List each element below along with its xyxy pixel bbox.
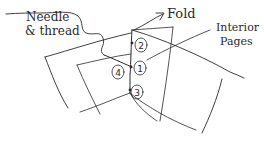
hole-marker-3: 3 <box>131 85 143 99</box>
fold-arrow <box>134 14 163 30</box>
pages-label: Pages <box>220 35 253 48</box>
needle-label: Needle <box>26 10 69 24</box>
stitch-diagram: 2 1 3 4 Needle & thread Fold Interior Pa… <box>0 0 264 141</box>
hole-label-4: 4 <box>115 68 121 78</box>
interior-label: Interior <box>216 21 260 34</box>
fold-label: Fold <box>167 6 196 21</box>
thread-label: & thread <box>25 24 80 38</box>
hole-marker-2: 2 <box>135 38 147 52</box>
hole-marker-4: 4 <box>112 65 124 79</box>
lower-flap-left <box>80 93 130 112</box>
interior-pages-leader <box>147 30 210 60</box>
hole-label-3: 3 <box>134 88 140 98</box>
hole-marker-1: 1 <box>134 61 146 75</box>
fold-spine <box>130 30 132 93</box>
stitch-dot-1 <box>130 66 133 69</box>
diagram-svg: 2 1 3 4 Needle & thread Fold Interior Pa… <box>0 0 264 141</box>
hole-label-2: 2 <box>138 41 144 51</box>
stitch-dot-2 <box>131 42 134 45</box>
hole-label-1: 1 <box>137 64 143 74</box>
